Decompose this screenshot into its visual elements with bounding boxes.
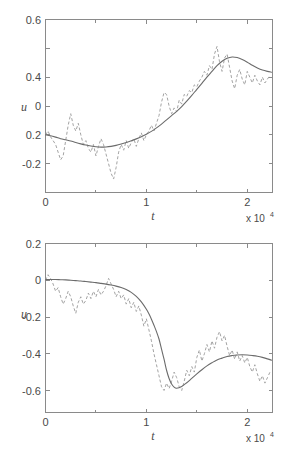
y-tick-label: 0 bbox=[35, 100, 41, 112]
x-exponent-top: x 10 4 bbox=[246, 211, 274, 224]
y-tick-label: 0.4 bbox=[26, 71, 41, 83]
x-tick-labels-top: 0 1 2 bbox=[42, 196, 250, 208]
x-axis-label-top: t bbox=[151, 209, 155, 223]
x-ticks-top bbox=[46, 20, 248, 193]
series-smooth-top bbox=[46, 57, 272, 147]
chart-svg-top: 0.6 0.4 0.2 0 -0.2 0 1 2 u t x 10 4 bbox=[0, 0, 287, 228]
y-ticks-bottom bbox=[46, 244, 273, 391]
x-tick-label: 2 bbox=[244, 196, 250, 208]
series-noisy-bottom bbox=[46, 275, 270, 391]
chart-svg-bottom: 0.2 0 -0.2 -0.4 -0.6 0 1 2 u t x 10 4 bbox=[0, 228, 287, 456]
plot-frame-bottom bbox=[46, 244, 273, 413]
y-axis-label-bottom: u bbox=[21, 307, 27, 321]
y-tick-labels-top: 0.6 0.4 0.2 0 -0.2 bbox=[22, 14, 41, 170]
y-tick-label: 0.6 bbox=[26, 14, 41, 26]
y-ticks-top bbox=[46, 20, 273, 164]
y-tick-label: 0 bbox=[35, 274, 41, 286]
x-exponent-label: x 10 bbox=[246, 213, 265, 224]
x-tick-label: 1 bbox=[143, 196, 149, 208]
y-tick-label: -0.4 bbox=[22, 348, 41, 360]
chart-panel-top: 0.6 0.4 0.2 0 -0.2 0 1 2 u t x 10 4 bbox=[0, 0, 287, 228]
x-exponent-label: x 10 bbox=[246, 433, 265, 444]
y-tick-label: 0.2 bbox=[26, 238, 41, 250]
series-group-top bbox=[46, 46, 272, 179]
x-exponent-bottom: x 10 4 bbox=[246, 431, 274, 444]
x-tick-label: 0 bbox=[42, 416, 48, 428]
x-tick-labels-bottom: 0 1 2 bbox=[42, 416, 250, 428]
x-tick-label: 0 bbox=[42, 196, 48, 208]
y-tick-label: -0.6 bbox=[22, 385, 41, 397]
y-axis-label-top: u bbox=[21, 100, 27, 114]
y-tick-label: 0.2 bbox=[26, 129, 41, 141]
series-group-bottom bbox=[46, 275, 272, 391]
chart-panel-bottom: 0.2 0 -0.2 -0.4 -0.6 0 1 2 u t x 10 4 bbox=[0, 228, 287, 456]
series-noisy-top bbox=[46, 46, 270, 179]
x-axis-label-bottom: t bbox=[151, 429, 155, 443]
plot-frame-top bbox=[46, 20, 273, 193]
x-exponent-power: 4 bbox=[270, 211, 274, 218]
y-tick-label: -0.2 bbox=[22, 158, 41, 170]
x-tick-label: 1 bbox=[143, 416, 149, 428]
x-ticks-bottom bbox=[46, 244, 248, 413]
x-tick-label: 2 bbox=[244, 416, 250, 428]
figure-container: 0.6 0.4 0.2 0 -0.2 0 1 2 u t x 10 4 bbox=[0, 0, 287, 456]
x-exponent-power: 4 bbox=[270, 431, 274, 438]
